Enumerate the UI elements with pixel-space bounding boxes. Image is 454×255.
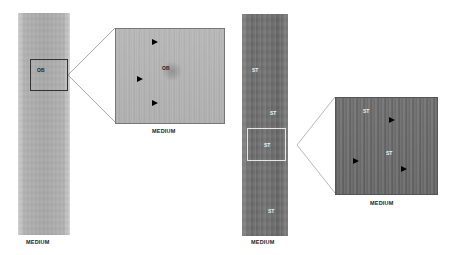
right-region-of-interest-box xyxy=(247,128,286,161)
left-strip-caption: MEDIUM xyxy=(26,239,50,245)
left-zoom-caption: MEDIUM xyxy=(152,128,176,134)
right-zoom-label-st-2: ST xyxy=(386,150,392,156)
arrowhead-icon xyxy=(152,39,158,45)
arrowhead-icon xyxy=(389,117,395,123)
arrowhead-icon xyxy=(353,158,359,164)
arrowhead-icon xyxy=(137,76,143,82)
arrowhead-icon xyxy=(401,166,407,172)
right-strip-label-st-2: ST xyxy=(270,110,276,116)
left-zoom-label-ob: OB xyxy=(162,65,170,71)
right-strip-caption: MEDIUM xyxy=(251,239,275,245)
right-strip-label-st-4: ST xyxy=(268,208,274,214)
right-zoomed-inset: ST ST xyxy=(335,97,438,195)
arrowhead-icon xyxy=(152,100,158,106)
left-zoomed-inset: OB xyxy=(115,28,225,124)
right-strip-label-st-1: ST xyxy=(252,67,258,73)
right-zoom-caption: MEDIUM xyxy=(370,200,394,206)
right-specimen-strip xyxy=(242,14,288,236)
right-zoom-label-st-1: ST xyxy=(363,108,369,114)
